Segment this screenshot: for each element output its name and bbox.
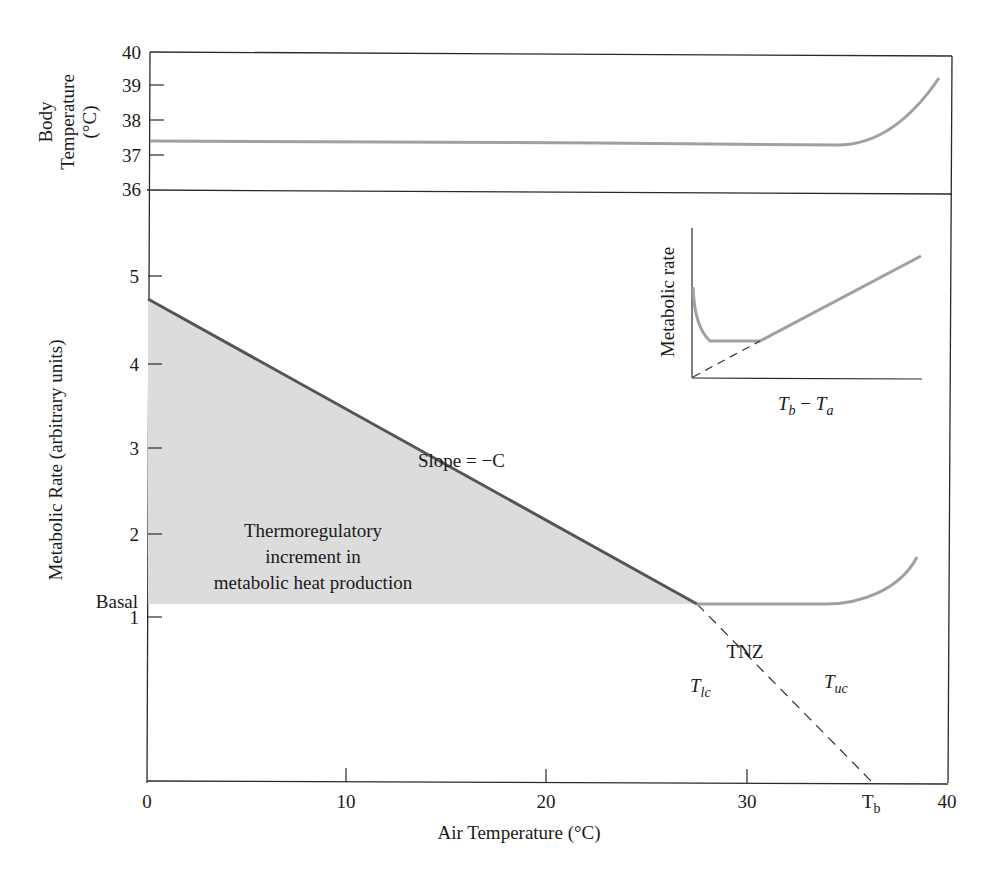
tnz-label: TNZ — [727, 641, 764, 662]
right-border — [948, 56, 952, 783]
figure: 40 39 38 37 36 Body Temperature (°C) 5 4… — [0, 0, 995, 874]
x-axis — [147, 781, 948, 784]
inset-plot: Metabolic rate Tb − Ta — [657, 228, 922, 418]
ytick-label-38: 38 — [122, 110, 141, 131]
tlc-label: Tlc — [690, 675, 711, 700]
xtick-label-0: 0 — [142, 791, 152, 812]
tb-sub: b — [874, 801, 881, 816]
inset-xlabel-sub1: b — [789, 403, 796, 418]
basal-label: Basal — [96, 591, 138, 612]
xtick-label-20: 20 — [537, 791, 556, 812]
inset-dashed-line — [693, 341, 760, 377]
ytick-label-3: 3 — [130, 438, 140, 459]
ytick-label-39: 39 — [122, 75, 141, 96]
metabolic-rate-panel: 5 4 3 2 1 Basal Metabolic Rate (arbitrar… — [45, 266, 957, 844]
xlabel: Air Temperature (°C) — [437, 822, 600, 844]
inset-x-axis — [692, 378, 922, 379]
metabolic-rate-ylabel: Metabolic Rate (arbitrary units) — [45, 339, 67, 580]
tlc-sub: lc — [701, 685, 712, 700]
ytick-label-36: 36 — [122, 179, 141, 200]
tnz-curve — [697, 557, 917, 604]
body-temperature-curve — [150, 78, 939, 145]
xtick-label-tb: Tb — [862, 791, 881, 816]
xtick-label-40: 40 — [938, 791, 957, 812]
ytick-label-5: 5 — [130, 266, 140, 287]
tuc-sub: uc — [835, 681, 849, 696]
region-label-line-2: increment in — [265, 546, 361, 567]
panel-separator — [147, 190, 952, 194]
region-label-line-1: Thermoregulatory — [244, 520, 383, 541]
tuc-label: Tuc — [824, 671, 849, 696]
inset-xlabel-sub2: a — [826, 403, 833, 418]
ylabel-line-3: (°C) — [79, 106, 101, 139]
ytick-label-2: 2 — [130, 524, 140, 545]
inset-ylabel: Metabolic rate — [657, 247, 678, 357]
inset-xlabel-minus: − — [796, 393, 816, 414]
ytick-label-37: 37 — [122, 145, 141, 166]
inset-xlabel: Tb − Ta — [778, 393, 833, 418]
top-panel-top-border — [150, 52, 952, 56]
ylabel-line-2: Temperature — [57, 74, 78, 170]
slope-annotation: Slope = −C — [418, 450, 505, 471]
tb-main: T — [862, 791, 874, 812]
region-label-line-3: metabolic heat production — [214, 572, 413, 593]
xtick-label-10: 10 — [337, 791, 356, 812]
ylabel-line-1: Body — [35, 101, 56, 143]
xtick-label-30: 30 — [738, 791, 757, 812]
inset-curve — [693, 256, 921, 341]
body-temp-ylabel: Body Temperature (°C) — [35, 74, 101, 170]
ytick-label-40: 40 — [122, 42, 141, 63]
ytick-label-4: 4 — [130, 354, 140, 375]
